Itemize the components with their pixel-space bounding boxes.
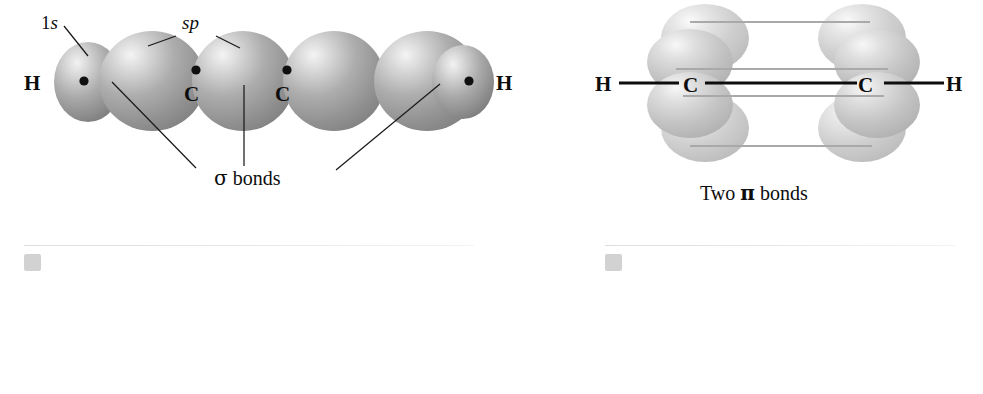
atom-label-b-c-left: C	[683, 73, 698, 97]
atom-label-b-h-right: H	[946, 72, 962, 96]
figure-artwork: 1s sp H C C H σ bonds	[0, 0, 983, 394]
nucleus-dot-h-right	[464, 76, 473, 85]
nucleus-dot-c-right	[282, 65, 291, 74]
nucleus-dot-h-left	[79, 76, 88, 85]
orbital-sp-left-outer	[99, 31, 205, 131]
atom-label-b-c-right: C	[858, 73, 873, 97]
label-two-pi-bonds: Two π bonds	[700, 181, 808, 205]
atom-label-b-h-left: H	[595, 72, 611, 96]
caption-divider-b	[605, 245, 955, 246]
label-1s: 1s	[41, 12, 58, 33]
atom-label-c-left: C	[184, 82, 199, 106]
atom-label-h-left: H	[24, 71, 40, 95]
label-sp: sp	[182, 12, 199, 33]
caption-divider-a	[24, 245, 474, 246]
caption-b	[605, 252, 955, 271]
orbital-1s-right	[432, 45, 494, 119]
caption-badge-b	[605, 254, 622, 271]
caption-a	[24, 252, 454, 271]
caption-badge-a	[24, 254, 41, 271]
orbital-sp-right-inner	[283, 31, 385, 131]
atom-label-h-right: H	[496, 71, 512, 95]
orbital-sp-left-inner	[192, 31, 294, 131]
chemistry-figure: 1s sp H C C H σ bonds	[0, 0, 983, 394]
panel-a-orbitals	[54, 31, 494, 131]
atom-label-c-right: C	[275, 82, 290, 106]
label-sigma-bonds: σ bonds	[214, 166, 281, 190]
nucleus-dot-c-left	[191, 65, 200, 74]
